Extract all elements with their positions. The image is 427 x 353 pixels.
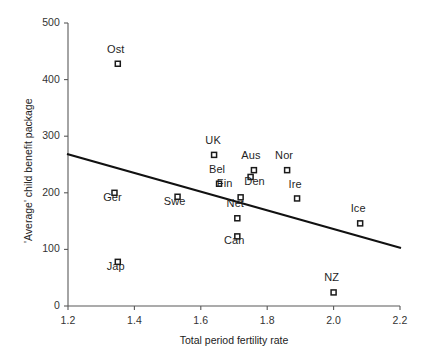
data-point-label: Ice [351, 202, 366, 214]
data-point-label: Swe [164, 195, 186, 207]
y-tick-label: 100 [24, 242, 60, 254]
x-tick-label: 2.0 [326, 314, 341, 326]
data-point-marker [212, 152, 217, 157]
plot-canvas [0, 0, 427, 353]
data-point-label: Ger [103, 191, 122, 203]
data-point-label: Ire [289, 178, 302, 190]
data-point-label: Aus [241, 149, 260, 161]
data-point-label: Fin [217, 177, 233, 189]
data-point-marker [115, 61, 120, 66]
y-tick-label: 400 [24, 73, 60, 85]
data-point-marker [235, 216, 240, 221]
data-point-label: Nor [275, 149, 293, 161]
y-tick-label: 500 [24, 16, 60, 28]
x-axis-title: Total period fertility rate [180, 334, 289, 346]
y-tick-label: 0 [24, 299, 60, 311]
x-tick-label: 1.8 [260, 314, 275, 326]
y-axis-title: 'Average' child benefit package [22, 98, 34, 243]
data-point-label: Net [227, 197, 244, 209]
data-point-label: NZ [324, 271, 339, 283]
x-tick-label: 1.4 [127, 314, 142, 326]
x-tick-label: 1.2 [61, 314, 76, 326]
data-point-marker [285, 168, 290, 173]
data-point-label: Jap [107, 260, 125, 272]
data-point-marker [251, 168, 256, 173]
scatter-chart: 0100200300400500 1.21.41.61.82.02.2 OstG… [0, 0, 427, 353]
x-tick-label: 1.6 [193, 314, 208, 326]
data-point-marker [331, 290, 336, 295]
data-point-label: Bel [209, 163, 225, 175]
x-tick-label: 2.2 [393, 314, 408, 326]
data-point-label: Can [224, 234, 244, 246]
data-point-marker [358, 221, 363, 226]
data-point-marker [295, 196, 300, 201]
data-point-label: Ost [107, 43, 124, 55]
data-point-label: Den [244, 175, 264, 187]
data-point-label: UK [205, 134, 220, 146]
